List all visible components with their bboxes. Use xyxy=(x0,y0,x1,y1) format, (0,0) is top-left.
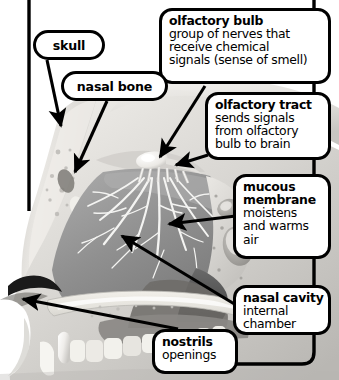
callout-nostrils[interactable]: nostrils openings xyxy=(152,329,238,374)
label-nasal-bone-text: nasal bone xyxy=(77,79,152,94)
callout-desc-line: air xyxy=(243,233,321,246)
callout-olfactory-bulb[interactable]: olfactory bulb group of nerves that rece… xyxy=(159,8,331,84)
callout-nasal-cavity[interactable]: nasal cavity internal chamber xyxy=(233,285,331,335)
callout-desc-line: chamber xyxy=(243,317,321,330)
callout-desc-line: bulb to brain xyxy=(215,137,321,150)
callout-desc-line: openings xyxy=(162,348,228,361)
label-nasal-bone[interactable]: nasal bone xyxy=(61,71,168,101)
callout-mucous-membrane[interactable]: mucous membrane moistens and warms air xyxy=(233,174,331,259)
label-skull-text: skull xyxy=(53,38,85,53)
callout-desc-line: signals (sense of smell) xyxy=(169,53,321,66)
diagram-canvas: olfactory bulb group of nerves that rece… xyxy=(0,0,339,380)
label-skull[interactable]: skull xyxy=(33,30,105,60)
callout-desc-line: and warms xyxy=(243,219,321,232)
callout-olfactory-tract[interactable]: olfactory tract sends signals from olfac… xyxy=(205,92,331,160)
